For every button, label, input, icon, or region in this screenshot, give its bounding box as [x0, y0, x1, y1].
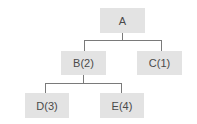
- node-e: E(4): [100, 93, 144, 118]
- connector-to-e: [121, 83, 122, 93]
- node-d: D(3): [25, 93, 69, 118]
- connector-to-c: [161, 40, 162, 51]
- connector-a-bar: [84, 40, 162, 41]
- connector-to-b: [84, 40, 85, 51]
- connector-b-bar: [45, 83, 122, 84]
- node-c: C(1): [137, 51, 182, 75]
- node-b: B(2): [61, 51, 106, 75]
- connector-to-d: [45, 83, 46, 93]
- node-a: A: [100, 8, 145, 33]
